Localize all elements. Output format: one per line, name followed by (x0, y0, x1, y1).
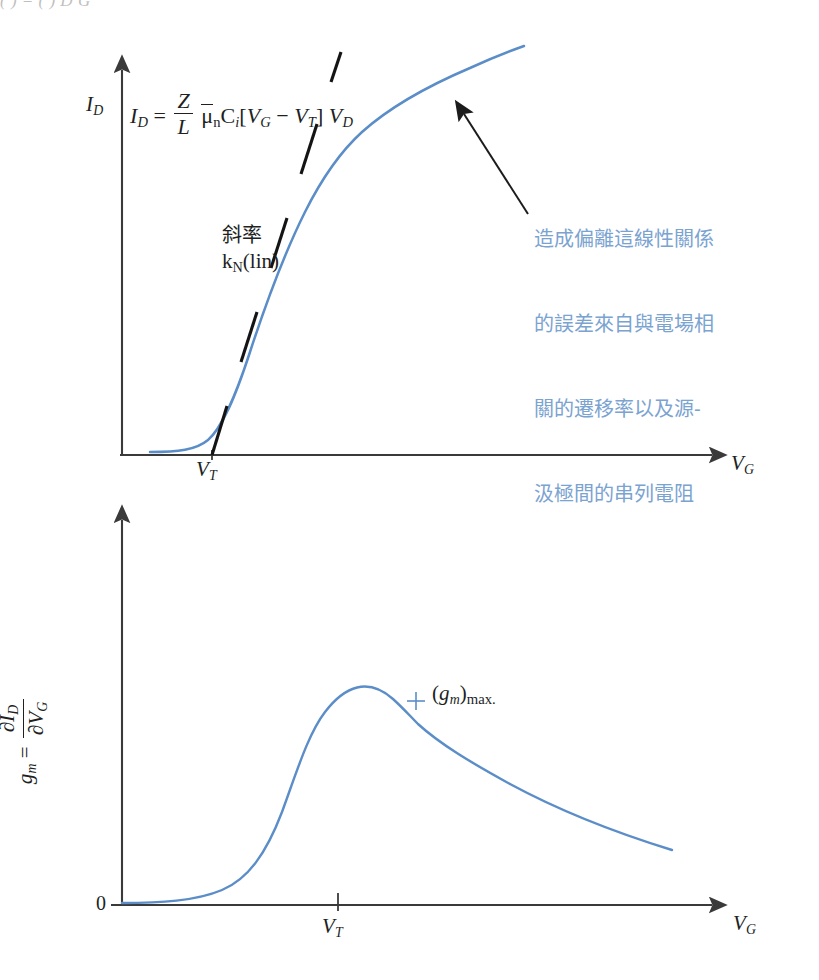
chart1-x-axis-label-sub: G (744, 462, 754, 477)
chart1-x-axis-label-v: V (731, 451, 744, 475)
chart2-x-axis-label-v: V (733, 911, 746, 935)
chart2-vt-label-sub: T (335, 925, 343, 940)
chart2-gm-curve (122, 687, 672, 903)
chart2-gm-equals: = (13, 746, 37, 758)
chart2-y-axis-label: gm = ∂ID ∂VG (0, 640, 51, 840)
equation-equals: = (154, 103, 166, 128)
equation-minus: − (276, 103, 288, 128)
chart2-gm-sub: m (24, 764, 39, 774)
equation-bracket-close: ] (316, 103, 323, 128)
chart2-gm-fraction: ∂ID ∂VG (0, 699, 51, 738)
chart2-gm-num-d: ∂I (0, 715, 19, 732)
chart1-callout-arrow (464, 114, 528, 214)
chart2-peak-open: ( (432, 681, 439, 705)
chart2-gm-den-sub: G (35, 702, 50, 712)
chart2-vt-label: VT (322, 915, 343, 941)
chart2-peak-max: max. (467, 691, 496, 707)
equation-vg: V (247, 103, 260, 128)
equation-z-over-l: Z L (174, 89, 192, 138)
equation-vt: V (294, 103, 307, 128)
chart2-gm-den: ∂VG (24, 699, 51, 738)
chart2-vt-label-v: V (322, 914, 335, 938)
equation-frac-numerator: Z (174, 89, 192, 114)
figure-root: ( ) = ( ) D G (0, 0, 819, 980)
equation-vt-sub: T (308, 114, 316, 130)
chart2-peak-g: g (439, 681, 450, 705)
chart2-x-axis-label-sub: G (746, 922, 756, 937)
chart2-x-axis-label: VG (733, 912, 756, 938)
chart2-gm-num: ∂ID (0, 699, 24, 738)
annotation-line-4: 汲極間的串列電阻 (534, 480, 714, 508)
chart1-y-axis-label-sub: D (93, 103, 103, 118)
equation-vg-sub: G (260, 114, 271, 130)
equation-lhs-sub: D (137, 114, 148, 130)
equation-frac-denominator: L (174, 114, 192, 138)
chart1-vt-label-sub: T (209, 468, 217, 483)
chart1-y-axis-label-i: I (86, 92, 93, 116)
slope-k: k (222, 249, 233, 273)
annotation-line-1: 造成偏離這線性關係 (534, 225, 714, 253)
chart2-origin-label: 0 (96, 893, 106, 914)
chart1-vt-label: VT (196, 458, 217, 484)
chart1-y-axis-label: ID (86, 93, 103, 119)
chart2-peak-label: (gm)max. (432, 682, 496, 708)
equation-mu-bar: μ (201, 104, 213, 127)
chart2-peak-marker-icon (407, 692, 425, 710)
chart1-slope-label-cjk: 斜率 (222, 222, 279, 248)
chart2-peak-close: ) (460, 681, 467, 705)
equation-vd: V (329, 103, 342, 128)
chart2-gm-den-d: ∂V (24, 712, 48, 735)
equation-capacitance: C (220, 103, 235, 128)
chart2-peak-sub: m (450, 692, 460, 707)
chart2-gm-num-sub: D (6, 705, 21, 715)
chart1-slope-label-kn: kN(lin) (222, 248, 279, 277)
slope-k-sub: N (233, 259, 243, 275)
chart2-gm: g (13, 774, 37, 785)
chart1-equation: ID = Z L μnCi[VG − VT] VD (130, 89, 353, 138)
annotation-line-3: 關的遷移率以及源- (534, 395, 714, 423)
chart1-x-axis-label: VG (731, 452, 754, 478)
chart2-axes (111, 520, 712, 911)
equation-vd-sub: D (342, 114, 353, 130)
slope-k-rest: (lin) (243, 249, 279, 273)
chart1-vt-label-v: V (196, 457, 209, 481)
equation-bracket-open: [ (239, 103, 246, 128)
chart1-callout-annotation: 造成偏離這線性關係 的誤差來自與電場相 關的遷移率以及源- 汲極間的串列電阻 (534, 168, 714, 565)
chart1-slope-label: 斜率 kN(lin) (222, 222, 279, 277)
annotation-line-2: 的誤差來自與電場相 (534, 310, 714, 338)
